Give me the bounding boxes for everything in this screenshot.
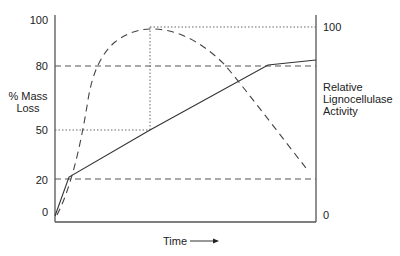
- x-axis-label: Time: [163, 235, 187, 247]
- left-axis-label-line1: % Mass: [8, 90, 48, 102]
- right-axis-label-line1: Relative: [323, 81, 363, 93]
- chart: 100 80 50 20 0 % Mass Loss 100 0 Relativ…: [0, 0, 400, 256]
- left-tick-50: 50: [36, 124, 48, 136]
- right-axis-label-line2: Lignocellulase: [323, 93, 393, 105]
- left-tick-100: 100: [30, 14, 48, 26]
- right-tick-0: 0: [323, 209, 329, 221]
- arrow-right-icon: [213, 239, 219, 244]
- right-tick-100: 100: [323, 21, 341, 33]
- mass-loss-line: [55, 60, 316, 216]
- right-axis-label-line3: Activity: [323, 105, 358, 117]
- left-axis-label-line2: Loss: [16, 102, 40, 114]
- left-tick-80: 80: [36, 60, 48, 72]
- left-tick-20: 20: [36, 174, 48, 186]
- activity-curve: [57, 29, 306, 215]
- left-tick-0: 0: [42, 206, 48, 218]
